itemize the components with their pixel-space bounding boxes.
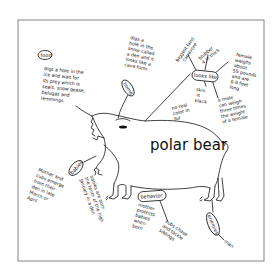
- branch-babies: babies Mother and cubs emerge from their…: [26, 158, 110, 225]
- branch-behavior: behavior mother protects babies when bor…: [132, 190, 189, 246]
- svg-text:black: black: [194, 98, 207, 105]
- branch-food: food digs a hole in the ice and wait for…: [38, 51, 88, 106]
- polar-bear-drawing: [91, 113, 228, 201]
- svg-text:fur: fur: [174, 115, 182, 121]
- enemies-note: man: [223, 239, 234, 249]
- branch-enemies: enemies man: [204, 211, 235, 249]
- svg-text:long: long: [229, 84, 240, 91]
- concept-map-sheet: polar bear food digs a hole in the ice a…: [0, 0, 277, 277]
- bubble-food-label: food: [41, 52, 52, 58]
- center-label: polar bear: [150, 136, 228, 154]
- svg-text:lemmings: lemmings: [41, 96, 65, 103]
- branch-looks-like: looks like biggest land carnivore blubbe…: [171, 36, 261, 124]
- branch-home: home digs a hole in the snow called a de…: [119, 35, 158, 98]
